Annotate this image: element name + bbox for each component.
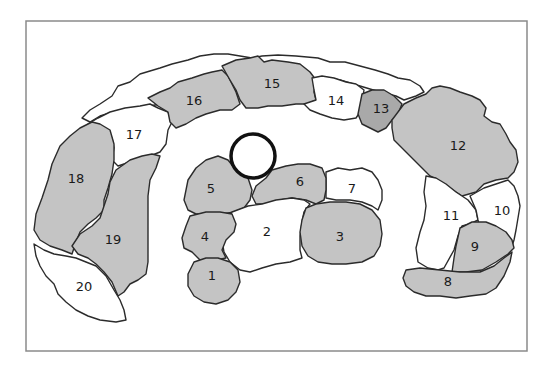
label-2: 2 — [263, 224, 271, 239]
central-ring — [231, 134, 275, 178]
label-4: 4 — [201, 229, 209, 244]
label-15: 15 — [264, 76, 281, 91]
label-3: 3 — [336, 229, 344, 244]
label-10: 10 — [494, 203, 511, 218]
label-18: 18 — [68, 171, 85, 186]
label-6: 6 — [296, 174, 304, 189]
label-13: 13 — [373, 101, 390, 116]
label-8: 8 — [444, 274, 452, 289]
label-7: 7 — [348, 181, 356, 196]
label-17: 17 — [126, 127, 143, 142]
label-9: 9 — [471, 239, 479, 254]
label-1: 1 — [208, 268, 216, 283]
label-14: 14 — [328, 93, 345, 108]
label-19: 19 — [105, 232, 122, 247]
label-20: 20 — [76, 279, 93, 294]
region-map-diagram: 1 2 3 4 5 6 7 8 9 10 11 12 13 14 15 16 1… — [0, 0, 549, 369]
label-12: 12 — [450, 138, 467, 153]
label-11: 11 — [443, 208, 460, 223]
label-5: 5 — [207, 181, 215, 196]
label-16: 16 — [186, 93, 203, 108]
